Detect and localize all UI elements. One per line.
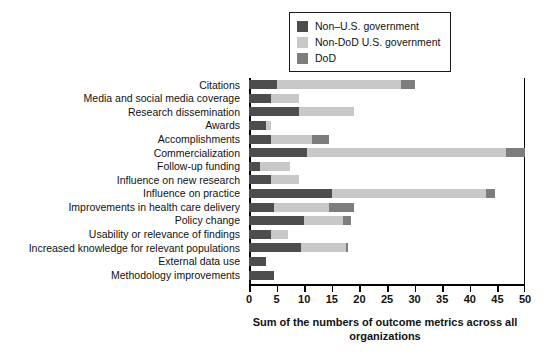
bar-row[interactable] — [249, 119, 525, 133]
y-axis-tick-label: Citations — [0, 78, 245, 92]
legend-item[interactable]: Non-DoD U.S. government — [297, 34, 440, 50]
y-axis-tick-label-text: Methodology improvements — [111, 270, 240, 281]
bar-row[interactable] — [249, 173, 525, 187]
legend-color-swatch — [297, 37, 308, 48]
stacked-bar — [249, 175, 299, 184]
x-axis-tick-label: 50 — [519, 294, 531, 305]
bar-segment — [249, 121, 266, 130]
stacked-bar — [249, 203, 354, 212]
bar-segment — [271, 94, 299, 103]
bar-segment — [277, 80, 401, 89]
bar-segment — [332, 189, 487, 198]
stacked-bar — [249, 189, 495, 198]
bar-segment — [249, 189, 332, 198]
y-axis-tick-label: Methodology improvements — [0, 268, 245, 282]
bar-row[interactable] — [249, 160, 525, 174]
x-axis-tick-label: 15 — [326, 294, 338, 305]
bar-segment — [346, 243, 349, 252]
x-axis-tick-mark — [442, 286, 444, 292]
y-axis-tick-label: Influence on new research — [0, 173, 245, 187]
legend-item-label: Non–U.S. government — [315, 21, 419, 32]
bar-segment — [343, 216, 351, 225]
legend-color-swatch — [297, 21, 308, 32]
bar-row[interactable] — [249, 78, 525, 92]
stacked-bar — [249, 243, 348, 252]
x-axis-tick-mark — [497, 286, 499, 292]
x-axis-tick-label: 10 — [298, 294, 310, 305]
bar-segment — [307, 148, 506, 157]
stacked-bar — [249, 80, 415, 89]
x-axis-tick-label: 45 — [491, 294, 503, 305]
y-axis-tick-label-text: Media and social media coverage — [84, 93, 240, 104]
bar-segment — [312, 135, 329, 144]
bar-row[interactable] — [249, 268, 525, 282]
x-axis-tick-label: 35 — [436, 294, 448, 305]
bar-segment — [401, 80, 415, 89]
bar-segment — [486, 189, 494, 198]
bar-row[interactable] — [249, 132, 525, 146]
y-axis-tick-label-text: Influence on new research — [117, 175, 240, 186]
y-axis-tick-label: Increased knowledge for relevant populat… — [0, 241, 245, 255]
bar-segment — [249, 175, 271, 184]
bar-row[interactable] — [249, 105, 525, 119]
y-axis-tick-label-text: Awards — [205, 120, 240, 131]
bar-segment — [271, 230, 288, 239]
y-axis-tick-label-text: Influence on practice — [143, 188, 240, 199]
x-axis-tick-mark — [332, 286, 334, 292]
bar-segment — [249, 107, 299, 116]
y-axis-tick-label: Accomplishments — [0, 132, 245, 146]
chart-container: Non–U.S. governmentNon-DoD U.S. governme… — [0, 0, 555, 355]
y-axis-tick-label: Media and social media coverage — [0, 92, 245, 106]
bar-segment — [299, 107, 354, 116]
y-axis-tick-label-text: Follow-up funding — [157, 161, 240, 172]
x-axis-tick-mark — [387, 286, 389, 292]
bar-row[interactable] — [249, 146, 525, 160]
legend-color-swatch — [297, 53, 308, 64]
bar-segment — [249, 162, 260, 171]
stacked-bar — [249, 107, 354, 116]
y-axis-tick-label-text: Accomplishments — [158, 134, 240, 145]
bar-segment — [249, 80, 277, 89]
legend-item[interactable]: Non–U.S. government — [297, 18, 440, 34]
y-axis-tick-label-text: External data use — [158, 256, 240, 267]
bar-segment — [249, 203, 274, 212]
x-axis-title: Sum of the numbers of outcome metrics ac… — [230, 316, 540, 344]
y-axis-tick-label-text: Increased knowledge for relevant populat… — [29, 243, 240, 254]
bar-segment — [271, 175, 299, 184]
x-axis-tick-label: 20 — [353, 294, 365, 305]
bar-segment — [249, 257, 266, 266]
y-axis-tick-label-text: Citations — [199, 80, 240, 91]
bar-segment — [249, 243, 301, 252]
bar-row[interactable] — [249, 214, 525, 228]
stacked-bar — [249, 121, 271, 130]
bar-segment — [329, 203, 354, 212]
x-axis-tick-mark — [524, 286, 526, 292]
stacked-bar — [249, 94, 299, 103]
y-axis-labels: CitationsMedia and social media coverage… — [0, 78, 245, 284]
y-axis-tick-label-text: Improvements in health care delivery — [68, 202, 240, 213]
bar-row[interactable] — [249, 255, 525, 269]
bar-row[interactable] — [249, 228, 525, 242]
x-axis-tick-mark — [249, 286, 251, 292]
bar-segment — [249, 271, 274, 280]
bar-row[interactable] — [249, 187, 525, 201]
stacked-bar — [249, 148, 525, 157]
x-axis-tick-mark — [304, 286, 306, 292]
bar-row[interactable] — [249, 92, 525, 106]
bar-segment — [304, 216, 343, 225]
bar-segment — [249, 148, 307, 157]
legend-item[interactable]: DoD — [297, 50, 440, 66]
bar-segment — [271, 135, 312, 144]
bar-segment — [266, 121, 272, 130]
y-axis-tick-label: Research dissemination — [0, 105, 245, 119]
y-axis-tick-label: Improvements in health care delivery — [0, 200, 245, 214]
x-axis-tick-label: 30 — [408, 294, 420, 305]
stacked-bar — [249, 135, 329, 144]
bar-row[interactable] — [249, 241, 525, 255]
bar-segment — [249, 135, 271, 144]
x-axis-tick-label: 40 — [464, 294, 476, 305]
legend-item-label: DoD — [315, 53, 336, 64]
y-axis-tick-label: Policy change — [0, 214, 245, 228]
stacked-bar — [249, 216, 351, 225]
bar-row[interactable] — [249, 200, 525, 214]
